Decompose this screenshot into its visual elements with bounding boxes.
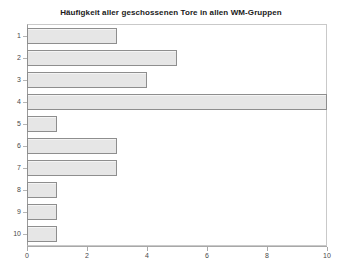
x-axis-tick (27, 247, 28, 251)
x-axis-tick (267, 247, 268, 251)
bar-row (27, 113, 327, 135)
x-axis-tick-label: 6 (197, 252, 217, 259)
bar (27, 28, 117, 44)
bar-row (27, 47, 327, 69)
bar (27, 116, 57, 132)
x-axis-line (27, 246, 327, 247)
bar-row (27, 91, 327, 113)
bar (27, 138, 117, 154)
y-axis-tick-label: 3 (17, 69, 21, 91)
bar-row (27, 223, 327, 245)
bar (27, 160, 117, 176)
x-axis-tick (147, 247, 148, 251)
bar (27, 94, 327, 110)
bar (27, 72, 147, 88)
bar (27, 226, 57, 242)
y-axis-tick-label: 4 (17, 91, 21, 113)
bar (27, 182, 57, 198)
x-axis-tick (207, 247, 208, 251)
x-axis-tick (87, 247, 88, 251)
y-axis-tick-label: 7 (17, 157, 21, 179)
y-axis-tick-label: 10 (13, 223, 21, 245)
bar (27, 50, 177, 66)
x-axis-tick-label: 10 (317, 252, 337, 259)
y-axis-tick-label: 9 (17, 201, 21, 223)
y-axis-tick-label: 6 (17, 135, 21, 157)
bar-row (27, 135, 327, 157)
y-axis-tick-label: 5 (17, 113, 21, 135)
x-axis-tick-label: 0 (17, 252, 37, 259)
x-axis-tick (327, 247, 328, 251)
bar-row (27, 201, 327, 223)
bar-row (27, 179, 327, 201)
chart-title: Häufigkeit aller geschossenen Tore in al… (0, 8, 342, 17)
bar-row (27, 157, 327, 179)
y-axis-tick-label: 2 (17, 47, 21, 69)
bar-row (27, 69, 327, 91)
bar-chart: Häufigkeit aller geschossenen Tore in al… (0, 0, 342, 272)
x-axis-tick-label: 2 (77, 252, 97, 259)
bar (27, 204, 57, 220)
bars-layer (27, 25, 327, 245)
y-axis-tick-label: 1 (17, 25, 21, 47)
x-axis-tick-label: 8 (257, 252, 277, 259)
x-axis-tick-label: 4 (137, 252, 157, 259)
y-axis-tick-label: 8 (17, 179, 21, 201)
y-axis: 12345678910 (0, 25, 27, 245)
bar-row (27, 25, 327, 47)
